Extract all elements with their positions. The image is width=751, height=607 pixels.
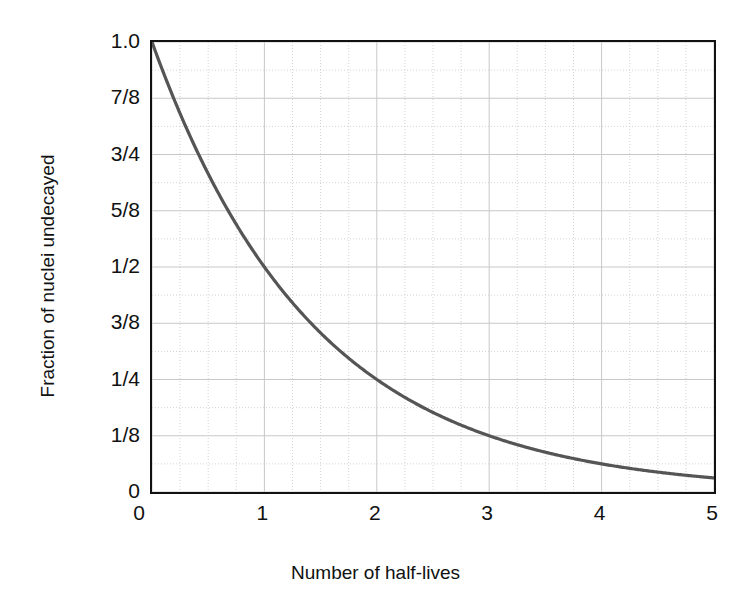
- y-tick-label: 7/8: [96, 86, 140, 107]
- decay-curve: [152, 42, 714, 492]
- x-tick-label: 5: [692, 502, 732, 523]
- x-tick-label: 3: [467, 502, 507, 523]
- x-tick-label: 2: [355, 502, 395, 523]
- y-tick-label: 3/4: [96, 142, 140, 163]
- y-tick-label: 1/4: [96, 367, 140, 388]
- plot-area: [150, 40, 716, 494]
- radioactive-decay-chart: 1.07/83/45/81/23/81/41/80 012345 Fractio…: [0, 0, 751, 607]
- x-tick-label: 0: [119, 502, 159, 523]
- y-tick-label: 1/8: [96, 423, 140, 444]
- y-tick-label: 0: [96, 480, 140, 501]
- x-axis-title: Number of half-lives: [0, 562, 751, 584]
- y-tick-label: 5/8: [96, 198, 140, 219]
- y-axis-title: Fraction of nuclei undecayed: [37, 126, 59, 426]
- y-tick-label: 3/8: [96, 311, 140, 332]
- x-tick-label: 4: [580, 502, 620, 523]
- x-tick-label: 1: [242, 502, 282, 523]
- y-tick-label: 1.0: [96, 30, 140, 51]
- y-tick-label: 1/2: [96, 255, 140, 276]
